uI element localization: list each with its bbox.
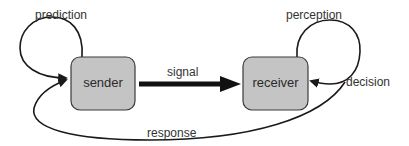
signal-arrowhead-icon [220, 76, 241, 92]
decision-label: decision [346, 75, 390, 89]
response-label: response [147, 126, 197, 140]
receiver-label: receiver [252, 75, 299, 90]
sender-node[interactable]: sender [71, 57, 135, 110]
signal-label: signal [167, 65, 198, 79]
receiver-node[interactable]: receiver [243, 57, 308, 110]
communication-diagram: sender receiver prediction signal percep… [0, 0, 409, 146]
perception-label: perception [286, 8, 342, 22]
prediction-label: prediction [35, 8, 87, 22]
sender-label: sender [83, 75, 123, 90]
